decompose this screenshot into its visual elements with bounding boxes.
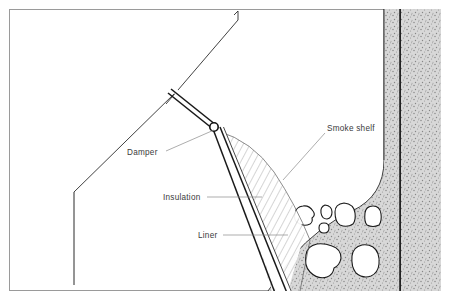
stone-7 — [352, 245, 379, 277]
label-smoke-shelf: Smoke shelf — [327, 124, 375, 133]
flue-wall-right-band — [384, 9, 400, 291]
figure-root: DamperInsulationLinerSmoke shelf — [0, 0, 449, 304]
stone-3 — [319, 223, 329, 233]
fireplace-cutaway-diagram: DamperInsulationLinerSmoke shelf — [0, 0, 449, 304]
stone-2 — [321, 205, 332, 219]
label-liner: Liner — [198, 231, 217, 240]
stone-5 — [365, 206, 382, 227]
damper-pivot — [210, 123, 218, 131]
label-damper: Damper — [127, 148, 158, 157]
stone-4 — [335, 203, 355, 226]
label-insulation: Insulation — [163, 193, 201, 202]
